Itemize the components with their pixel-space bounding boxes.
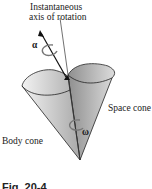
- axis-label-line2: axis of rotation: [29, 12, 87, 22]
- axis-label-line1: Instantaneous: [30, 2, 82, 12]
- figure-caption: Fig. 20-4: [2, 181, 47, 189]
- body-cone-label: Body cone: [2, 136, 43, 146]
- space-cone-label: Space cone: [108, 103, 151, 113]
- alpha-rotation-arrow-icon: [42, 45, 57, 56]
- cone-diagram: [0, 0, 152, 189]
- omega-label: ω: [82, 127, 89, 137]
- alpha-label: α: [32, 40, 37, 50]
